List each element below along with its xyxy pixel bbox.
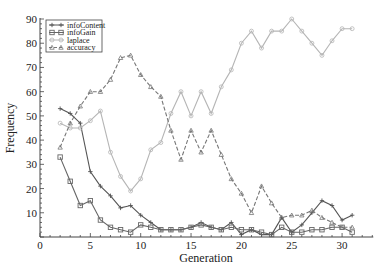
y-tick-label: 60 [26,86,38,98]
y-tick-label: 70 [26,61,38,73]
y-tick-label: 90 [26,13,38,25]
line-chart: 051015202530102030405060708090 infoConte… [0,0,387,269]
y-tick-label: 50 [26,110,38,122]
x-tick-label: 5 [88,239,94,251]
legend-label: accuracy [67,43,95,52]
x-tick-label: 10 [135,239,147,251]
legend: infoContentinfoGainlaplaceaccuracy [46,20,106,52]
x-tick-label: 20 [236,239,248,251]
x-tick-label: 15 [186,239,198,251]
x-tick-label: 0 [37,239,43,251]
x-tick-label: 30 [337,239,349,251]
series-layer [58,17,354,237]
y-tick-label: 80 [26,37,38,49]
series-laplace [58,17,354,193]
y-axis-label: Frequency [3,103,17,154]
y-tick-label: 30 [26,158,38,170]
y-tick-label: 40 [26,134,38,146]
series-infoContent [58,106,354,236]
y-tick-label: 10 [26,207,38,219]
series-accuracy [58,53,354,229]
x-tick-label: 25 [286,239,298,251]
x-axis-label: Generation [179,251,232,265]
y-tick-label: 20 [26,183,38,195]
